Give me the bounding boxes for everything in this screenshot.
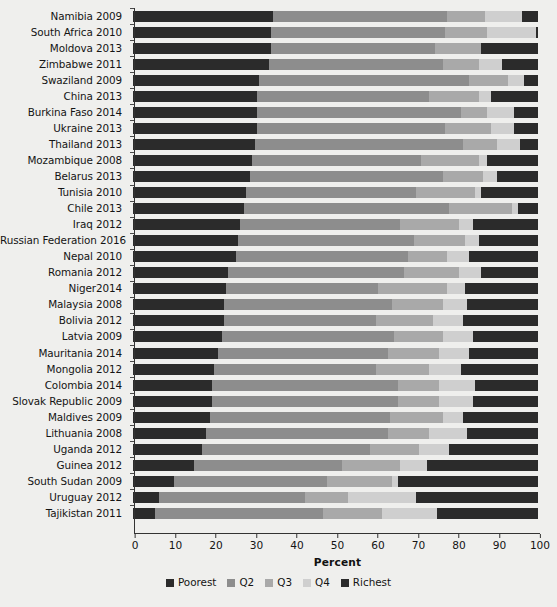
bar-segment-q2 xyxy=(212,396,398,407)
legend-item-q2[interactable]: Q2 xyxy=(227,577,254,588)
bar-segment-q2 xyxy=(174,476,328,487)
bar-segment-q2 xyxy=(228,267,404,278)
bar-segment-q3 xyxy=(378,283,447,294)
tick-stalk xyxy=(296,534,297,538)
bar-segment-q3 xyxy=(376,364,429,375)
bar-row-label: Guinea 2012 xyxy=(0,460,128,471)
bar-segment-q3 xyxy=(414,235,465,246)
bar-row: Chile 2013 xyxy=(0,201,557,217)
bar-segment-q4 xyxy=(485,11,521,22)
bar-segment-richest xyxy=(437,508,538,519)
legend-item-richest[interactable]: Richest xyxy=(341,577,391,588)
bar-segment-richest xyxy=(481,43,538,54)
stacked-bar xyxy=(133,428,538,439)
legend-label: Richest xyxy=(353,577,391,588)
bar-segment-richest xyxy=(514,107,538,118)
bar-segment-q2 xyxy=(226,283,378,294)
bar-segment-poorest xyxy=(133,251,236,262)
legend-label: Poorest xyxy=(178,577,217,588)
bar-segment-q4 xyxy=(483,171,497,182)
bar-segment-q4 xyxy=(465,235,479,246)
bar-segment-poorest xyxy=(133,203,244,214)
bar-row-label: Mongolia 2012 xyxy=(0,364,128,375)
bar-segment-q2 xyxy=(206,428,388,439)
stacked-bar xyxy=(133,11,538,22)
legend-swatch-icon xyxy=(227,579,235,587)
bar-segment-poorest xyxy=(133,107,257,118)
legend-item-q3[interactable]: Q3 xyxy=(265,577,292,588)
bar-segment-q3 xyxy=(388,428,429,439)
bar-segment-q2 xyxy=(259,75,470,86)
x-axis-tick: 80 xyxy=(452,534,465,551)
bar-row-label: Slovak Republic 2009 xyxy=(0,396,128,407)
x-axis-tick: 0 xyxy=(132,534,139,551)
stacked-bar xyxy=(133,331,538,342)
bar-segment-q3 xyxy=(323,508,382,519)
bar-segment-q3 xyxy=(392,299,443,310)
bar-segment-richest xyxy=(518,203,538,214)
bar-row-label: Lithuania 2008 xyxy=(0,428,128,439)
bar-row-label: Burkina Faso 2014 xyxy=(0,107,128,118)
bar-segment-q2 xyxy=(224,299,392,310)
bar-segment-q4 xyxy=(382,508,437,519)
bar-row: Mongolia 2012 xyxy=(0,361,557,377)
bar-segment-richest xyxy=(473,396,538,407)
stacked-bar xyxy=(133,171,538,182)
bar-segment-q3 xyxy=(416,187,475,198)
bar-segment-q3 xyxy=(390,412,443,423)
bar-segment-q2 xyxy=(210,412,390,423)
legend-item-poorest[interactable]: Poorest xyxy=(166,577,217,588)
bar-segment-q4 xyxy=(447,251,469,262)
bar-segment-richest xyxy=(398,476,538,487)
bar-row: Slovak Republic 2009 xyxy=(0,393,557,409)
bar-row: Colombia 2014 xyxy=(0,377,557,393)
bar-segment-richest xyxy=(514,123,538,134)
bar-segment-q2 xyxy=(271,43,435,54)
bar-segment-poorest xyxy=(133,364,214,375)
tick-stalk xyxy=(215,534,216,538)
tick-stalk xyxy=(458,534,459,538)
bar-row: Latvia 2009 xyxy=(0,329,557,345)
x-axis-tick: 100 xyxy=(530,534,550,551)
stacked-bar xyxy=(133,396,538,407)
bar-segment-q2 xyxy=(194,460,342,471)
bar-segment-q2 xyxy=(224,315,376,326)
stacked-bar xyxy=(133,315,538,326)
bar-segment-q2 xyxy=(238,235,414,246)
bar-segment-poorest xyxy=(133,476,174,487)
bar-segment-richest xyxy=(487,155,538,166)
bar-row: Mozambique 2008 xyxy=(0,152,557,168)
stacked-bar xyxy=(133,219,538,230)
bar-segment-richest xyxy=(481,267,538,278)
stacked-bar xyxy=(133,187,538,198)
bar-segment-q4 xyxy=(439,380,475,391)
bar-row: China 2013 xyxy=(0,88,557,104)
bar-row: Namibia 2009 xyxy=(0,8,557,24)
bar-segment-poorest xyxy=(133,315,224,326)
bar-segment-poorest xyxy=(133,444,202,455)
bar-segment-q2 xyxy=(257,91,429,102)
x-axis-tick: 90 xyxy=(493,534,506,551)
legend-label: Q3 xyxy=(277,577,292,588)
legend-swatch-icon xyxy=(265,579,273,587)
bar-segment-q2 xyxy=(244,203,449,214)
bar-segment-poorest xyxy=(133,283,226,294)
bar-segment-q2 xyxy=(252,155,420,166)
bar-segment-q3 xyxy=(469,75,507,86)
bar-segment-q3 xyxy=(370,444,419,455)
bar-row-label: Russian Federation 2016 xyxy=(0,235,128,246)
bar-segment-q2 xyxy=(218,348,388,359)
legend-item-q4[interactable]: Q4 xyxy=(303,577,330,588)
bar-segment-q2 xyxy=(212,380,398,391)
bar-row-label: Zimbabwe 2011 xyxy=(0,59,128,70)
bar-row-label: Mozambique 2008 xyxy=(0,155,128,166)
bar-row: Guinea 2012 xyxy=(0,457,557,473)
bar-segment-poorest xyxy=(133,187,246,198)
bar-segment-richest xyxy=(465,283,538,294)
tick-stalk xyxy=(175,534,176,538)
bar-segment-richest xyxy=(479,235,538,246)
bar-segment-q4 xyxy=(348,492,417,503)
legend-swatch-icon xyxy=(303,579,311,587)
bar-row: Mauritania 2014 xyxy=(0,345,557,361)
bar-segment-poorest xyxy=(133,43,271,54)
